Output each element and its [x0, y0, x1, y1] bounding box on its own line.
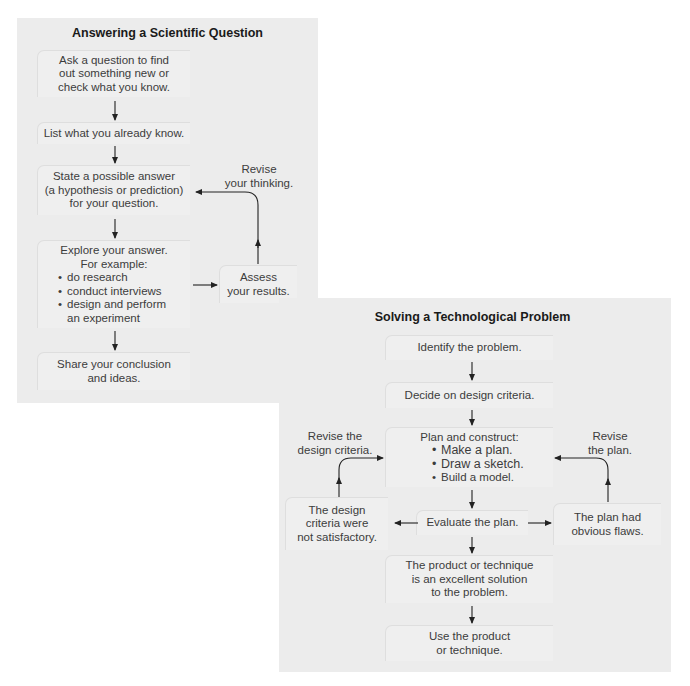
- box-text: Ask a question to find: [38, 54, 190, 68]
- box-text: obvious flaws.: [554, 525, 661, 539]
- box-text: out something new or: [38, 67, 190, 81]
- box-plan-flawed: The plan had obvious flaws.: [553, 503, 661, 545]
- bullet-item: •design and perform: [58, 298, 190, 312]
- box-text: The design: [286, 504, 388, 518]
- box-plan-construct: Plan and construct: •Make a plan. •Draw …: [385, 427, 553, 487]
- box-excellent-solution: The product or technique is an excellent…: [385, 555, 553, 603]
- plan-bullet-list: •Make a plan. •Draw a sketch. •Build a m…: [432, 444, 553, 485]
- bullet-item: •Draw a sketch.: [432, 458, 553, 472]
- box-evaluate-plan: Evaluate the plan.: [416, 510, 528, 535]
- bullet-icon: •: [58, 271, 67, 285]
- bullet-icon: •: [432, 471, 441, 485]
- box-ask-question: Ask a question to find out something new…: [37, 50, 190, 97]
- label-revise-thinking: Revise your thinking.: [218, 163, 300, 190]
- box-text: (a hypothesis or prediction): [38, 184, 190, 198]
- bullet-icon: •: [58, 285, 67, 299]
- box-text: Evaluate the plan.: [417, 516, 528, 530]
- box-text: Decide on design criteria.: [386, 389, 553, 403]
- box-use-product: Use the product or technique.: [385, 625, 553, 661]
- box-text: Share your conclusion: [38, 358, 190, 372]
- box-text: Use the product: [386, 630, 553, 644]
- box-text: to the problem.: [386, 586, 553, 600]
- box-decide-criteria: Decide on design criteria.: [385, 382, 553, 408]
- bullet-item: •conduct interviews: [58, 285, 190, 299]
- box-text: State a possible answer: [38, 170, 190, 184]
- bullet-icon: •: [58, 298, 67, 312]
- box-text: List what you already know.: [38, 127, 190, 141]
- box-text: Plan and construct:: [386, 431, 553, 445]
- label-revise-criteria: Revise the design criteria.: [290, 430, 380, 457]
- box-text: is an excellent solution: [386, 573, 553, 587]
- explore-bullet-list: •do research •conduct interviews •design…: [58, 271, 190, 325]
- bullet-item: •Build a model.: [432, 471, 553, 485]
- box-text: The product or technique: [386, 559, 553, 573]
- label-revise-plan: Revise the plan.: [575, 430, 645, 457]
- box-text: Explore your answer.: [38, 244, 190, 258]
- box-text: your results.: [220, 285, 297, 299]
- box-list-known: List what you already know.: [37, 122, 190, 144]
- box-text: Identify the problem.: [386, 341, 553, 355]
- box-share-conclusion: Share your conclusion and ideas.: [37, 352, 190, 390]
- bullet-item: •do research: [58, 271, 190, 285]
- box-text: The plan had: [554, 511, 661, 525]
- technological-problem-title: Solving a Technological Problem: [370, 310, 575, 324]
- box-identify-problem: Identify the problem.: [385, 335, 553, 360]
- box-state-hypothesis: State a possible answer (a hypothesis or…: [37, 165, 190, 215]
- bullet-item: •Make a plan.: [432, 444, 553, 458]
- box-text: and ideas.: [38, 372, 190, 386]
- box-criteria-unsatisfactory: The design criteria were not satisfactor…: [285, 497, 388, 550]
- box-text: criteria were: [286, 517, 388, 531]
- box-text: not satisfactory.: [286, 531, 388, 545]
- box-text: For example:: [38, 258, 190, 272]
- scientific-question-title: Answering a Scientific Question: [17, 26, 318, 40]
- box-text: for your question.: [38, 197, 190, 211]
- box-explore-answer: Explore your answer. For example: •do re…: [37, 240, 190, 328]
- box-text: Assess: [220, 271, 297, 285]
- bullet-continuation: an experiment: [58, 312, 190, 326]
- box-text: check what you know.: [38, 81, 190, 95]
- bullet-icon: •: [432, 458, 441, 472]
- bullet-icon: •: [432, 444, 441, 458]
- box-text: or technique.: [386, 644, 553, 658]
